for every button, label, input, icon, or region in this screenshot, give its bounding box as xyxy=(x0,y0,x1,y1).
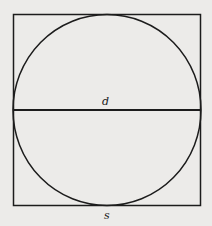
side-label: s xyxy=(104,210,110,221)
geometry-figure xyxy=(0,0,212,226)
diagram-canvas: d s xyxy=(0,0,212,226)
diameter-label: d xyxy=(102,96,109,107)
